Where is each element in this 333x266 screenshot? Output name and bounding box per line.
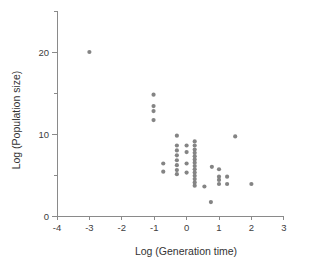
x-tick-label: 1	[216, 222, 221, 233]
data-point	[217, 182, 221, 186]
scatter-plot-figure: -4-3-2-1012301020 Log (Generation time) …	[0, 0, 333, 266]
x-tick-label: -2	[118, 222, 126, 233]
data-point	[185, 150, 189, 154]
data-point	[175, 163, 179, 167]
data-point	[175, 153, 179, 157]
axes: -4-3-2-1012301020	[38, 11, 286, 233]
y-axis-title: Log (Population size)	[10, 71, 22, 170]
data-point	[161, 170, 165, 174]
x-tick-label: 3	[281, 222, 286, 233]
data-point	[209, 200, 213, 204]
data-point	[175, 143, 179, 147]
data-point	[151, 104, 155, 108]
data-point	[151, 109, 155, 113]
x-tick-label: 0	[184, 222, 189, 233]
data-point	[87, 50, 91, 54]
data-point	[185, 170, 189, 174]
data-point	[217, 178, 221, 182]
data-point	[175, 172, 179, 176]
data-point	[175, 158, 179, 162]
y-tick-label: 10	[38, 129, 49, 140]
data-point	[210, 165, 214, 169]
data-point	[175, 168, 179, 172]
data-point	[202, 184, 206, 188]
x-tick-label: -4	[53, 222, 61, 233]
data-point	[193, 184, 197, 188]
y-tick-label: 20	[38, 47, 49, 58]
data-point	[249, 182, 253, 186]
x-axis-title: Log (Generation time)	[135, 245, 237, 257]
plot-canvas: -4-3-2-1012301020 Log (Generation time) …	[0, 0, 333, 266]
y-tick-label: 0	[44, 211, 49, 222]
data-point	[193, 139, 197, 143]
data-point	[151, 93, 155, 97]
data-points-layer	[87, 50, 253, 204]
data-point	[225, 182, 229, 186]
data-point	[175, 134, 179, 138]
x-tick-label: -1	[150, 222, 158, 233]
data-point	[217, 167, 221, 171]
data-point	[193, 143, 197, 147]
data-point	[185, 143, 189, 147]
x-tick-label: 2	[249, 222, 254, 233]
data-point	[225, 175, 229, 179]
data-point	[233, 134, 237, 138]
data-point	[185, 161, 189, 165]
data-point	[175, 148, 179, 152]
data-point	[161, 161, 165, 165]
data-point	[151, 118, 155, 122]
x-tick-label: -3	[85, 222, 93, 233]
